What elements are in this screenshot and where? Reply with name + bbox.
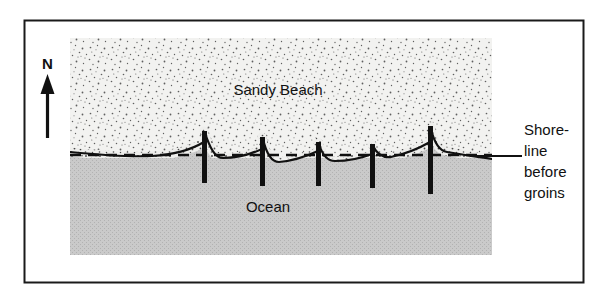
ocean-label: Ocean <box>246 198 290 215</box>
callout-line-2: line <box>524 142 547 159</box>
callout-line-4: groins <box>524 184 565 201</box>
sandy-beach-label: Sandy Beach <box>233 81 322 98</box>
figure-container: N Sandy Beach Ocean Shore- line before g… <box>0 0 603 294</box>
callout-line-3: before <box>524 163 567 180</box>
north-label: N <box>42 55 53 72</box>
callout-line-1: Shore- <box>524 121 569 138</box>
groin-shoreline-diagram: N Sandy Beach Ocean Shore- line before g… <box>0 0 603 294</box>
map-panel <box>70 38 492 255</box>
